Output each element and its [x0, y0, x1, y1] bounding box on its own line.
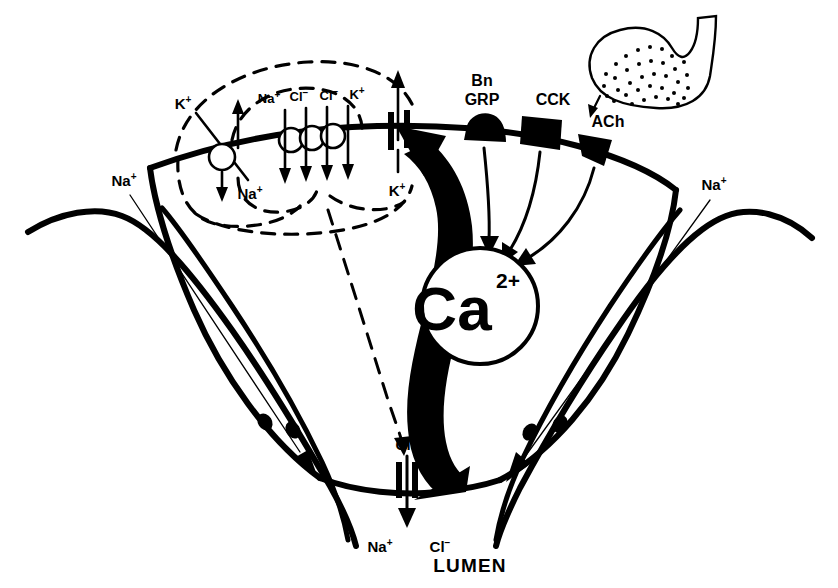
svg-text:Cl−: Cl−: [320, 86, 339, 103]
neighbor-cell-right: [496, 210, 812, 546]
calcium-charge: 2+: [496, 269, 520, 292]
nerve-terminal-bouton: [588, 16, 716, 118]
paracellular-sodium-left-label: Na+: [111, 171, 136, 189]
receptor-bn-grp-label-line1: Bn: [471, 72, 492, 89]
chloride-transcellular-path: [328, 210, 412, 456]
lumen-label: LUMEN: [433, 555, 507, 576]
na-k-2cl-cotransporter: [279, 106, 354, 184]
svg-text:K+: K+: [349, 85, 364, 102]
receptor-cck-label: CCK: [536, 91, 571, 108]
receptor-bn-grp: [464, 113, 506, 142]
receptor-ach-label: ACh: [592, 113, 625, 130]
secreted-sodium-label: Na+: [367, 537, 392, 555]
neighbor-cell-left: [28, 208, 356, 546]
chloride-channel: [396, 456, 418, 528]
receptor-bn-grp-label-line2: GRP: [465, 91, 500, 108]
potassium-channel: [388, 70, 410, 172]
pump-na-label: Na+: [237, 184, 262, 202]
paracellular-sodium-right-label: Na+: [701, 175, 726, 193]
paracellular-sodium-left: [130, 195, 318, 478]
paracellular-sodium-right: [506, 200, 710, 482]
potassium-channel-label: K+: [389, 181, 406, 199]
figure-canvas: K+ Na+ Na+ Cl− Cl− K+: [0, 0, 838, 588]
secreted-chloride-label: Cl−: [430, 537, 451, 555]
svg-text:Na+: Na+: [258, 89, 281, 106]
svg-text:Cl−: Cl−: [290, 87, 309, 104]
receptor-signal-arrows: [480, 148, 594, 266]
receptor-ach: [578, 134, 612, 166]
calcium-symbol: Ca: [412, 274, 492, 343]
acinar-cell-diagram: K+ Na+ Na+ Cl− Cl− K+: [0, 0, 838, 588]
pump-k-label: K+: [175, 94, 192, 112]
receptor-cck: [520, 116, 562, 150]
